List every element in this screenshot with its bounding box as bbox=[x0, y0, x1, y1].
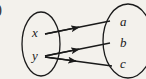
element-label-c: c bbox=[120, 57, 126, 70]
element-label-y: y bbox=[32, 49, 38, 62]
domain-ellipse bbox=[22, 12, 60, 76]
element-label-a: a bbox=[120, 15, 127, 28]
element-label-b: b bbox=[120, 36, 127, 49]
arrow-y-to-b bbox=[45, 43, 110, 56]
mapping-diagram-figure: ) x y a b c bbox=[0, 0, 146, 79]
element-label-x: x bbox=[32, 26, 38, 39]
